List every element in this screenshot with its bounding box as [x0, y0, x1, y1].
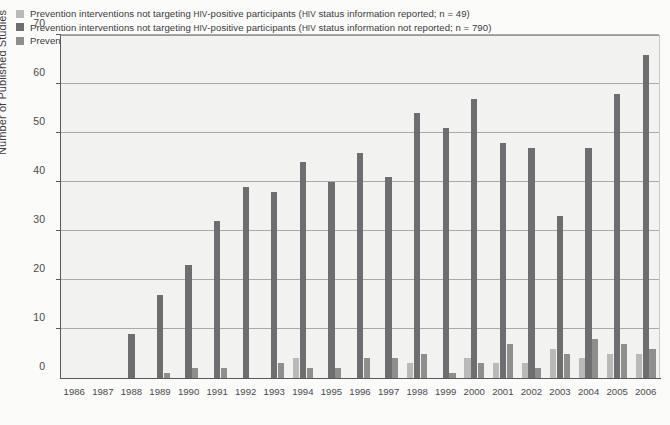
y-axis-title-wrap: Number of Published Studies — [14, 35, 34, 378]
bar-targeting-status-reported-2005 — [621, 344, 627, 378]
bar-targeting-status-reported-2002 — [535, 368, 541, 378]
bar-not-targeting-status-not-reported-1993 — [271, 192, 277, 378]
bar-group — [93, 35, 113, 378]
bar-not-targeting-status-reported-2006 — [636, 354, 642, 379]
bar-not-targeting-status-not-reported-1992 — [243, 187, 249, 378]
bar-group — [236, 35, 256, 378]
bar-not-targeting-status-not-reported-2000 — [471, 99, 477, 378]
bar-not-targeting-status-not-reported-1995 — [328, 182, 334, 378]
bar-not-targeting-status-not-reported-2002 — [528, 148, 534, 378]
bar-targeting-status-reported-1996 — [364, 358, 370, 378]
bar-targeting-status-reported-2000 — [478, 363, 484, 378]
bar-group — [436, 35, 456, 378]
bar-targeting-status-reported-1999 — [449, 373, 455, 378]
bar-not-targeting-status-reported-2000 — [464, 358, 470, 378]
bar-group — [607, 35, 627, 378]
bar-group — [522, 35, 542, 378]
bar-not-targeting-status-not-reported-1998 — [414, 113, 420, 378]
bar-not-targeting-status-not-reported-1996 — [357, 153, 363, 378]
bars-layer — [60, 35, 660, 378]
bar-not-targeting-status-not-reported-2005 — [614, 94, 620, 378]
bar-targeting-status-reported-2004 — [592, 339, 598, 378]
bar-group — [150, 35, 170, 378]
bar-not-targeting-status-reported-2003 — [550, 349, 556, 378]
bar-not-targeting-status-not-reported-1997 — [385, 177, 391, 378]
bar-targeting-status-reported-1990 — [192, 368, 198, 378]
y-axis-title: Number of Published Studies — [0, 10, 8, 155]
legend-label-series2: Prevention interventions not targeting H… — [30, 22, 491, 33]
bar-group — [636, 35, 656, 378]
bar-not-targeting-status-not-reported-2001 — [500, 143, 506, 378]
legend-label-series1: Prevention interventions not targeting H… — [30, 8, 470, 19]
bar-targeting-status-reported-2001 — [507, 344, 513, 378]
bar-not-targeting-status-reported-2001 — [493, 363, 499, 378]
bar-not-targeting-status-not-reported-2003 — [557, 216, 563, 378]
bar-group — [379, 35, 399, 378]
bar-targeting-status-reported-1994 — [307, 368, 313, 378]
y-tick-label-70: 70 — [5, 17, 45, 29]
bar-not-targeting-status-reported-1998 — [407, 363, 413, 378]
bar-targeting-status-reported-1989 — [164, 373, 170, 378]
legend-item-2: Prevention interventions not targeting H… — [16, 21, 576, 35]
bar-not-targeting-status-not-reported-1989 — [157, 295, 163, 378]
bar-targeting-status-reported-1997 — [392, 358, 398, 378]
x-axis-labels: 1986198719881989199019911992199319941995… — [60, 381, 660, 405]
bar-not-targeting-status-not-reported-1999 — [443, 128, 449, 378]
bar-group — [579, 35, 599, 378]
bar-group — [550, 35, 570, 378]
bar-targeting-status-reported-1991 — [221, 368, 227, 378]
bar-not-targeting-status-not-reported-1991 — [214, 221, 220, 378]
figure-container: Prevention interventions not targeting H… — [0, 0, 670, 425]
x-axis-line — [60, 378, 661, 379]
legend-item-1: Prevention interventions not targeting H… — [16, 7, 576, 21]
bar-targeting-status-reported-1995 — [335, 368, 341, 378]
bar-group — [179, 35, 199, 378]
bar-group — [64, 35, 84, 378]
bar-not-targeting-status-reported-2005 — [607, 354, 613, 379]
bar-not-targeting-status-reported-2004 — [579, 358, 585, 378]
bar-group — [293, 35, 313, 378]
bar-targeting-status-reported-2006 — [649, 349, 655, 378]
bar-targeting-status-reported-2003 — [564, 354, 570, 379]
bar-targeting-status-reported-1998 — [421, 354, 427, 379]
bar-not-targeting-status-not-reported-1994 — [300, 162, 306, 378]
bar-not-targeting-status-not-reported-2004 — [585, 148, 591, 378]
x-tick-label-2006: 2006 — [628, 386, 664, 397]
bar-targeting-status-reported-1993 — [278, 363, 284, 378]
bar-group — [350, 35, 370, 378]
bar-group — [264, 35, 284, 378]
bar-not-targeting-status-not-reported-2006 — [643, 55, 649, 378]
bar-group — [464, 35, 484, 378]
bar-not-targeting-status-not-reported-1990 — [185, 265, 191, 378]
bar-group — [407, 35, 427, 378]
bar-group — [122, 35, 142, 378]
bar-group — [322, 35, 342, 378]
bar-not-targeting-status-reported-1994 — [293, 358, 299, 378]
bar-not-targeting-status-not-reported-1988 — [128, 334, 134, 378]
bar-not-targeting-status-reported-2002 — [522, 363, 528, 378]
bar-group — [493, 35, 513, 378]
bar-group — [207, 35, 227, 378]
